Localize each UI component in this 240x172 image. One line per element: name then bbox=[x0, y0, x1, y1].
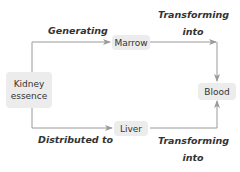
edge-label-marrow-to-blood: Transforming into bbox=[158, 6, 228, 40]
node-marrow-label: Marrow bbox=[114, 37, 147, 49]
edge-label-marrow-to-blood-line2: into bbox=[158, 23, 228, 40]
edge-label-distributed-to: Distributed to bbox=[38, 134, 113, 145]
node-marrow: Marrow bbox=[112, 35, 150, 50]
node-kidney-line1: Kidney bbox=[14, 78, 45, 90]
edge-label-liver-to-blood-line1: Transforming bbox=[158, 132, 228, 149]
edge-label-liver-to-blood: Transforming into bbox=[158, 132, 228, 166]
node-liver-label: Liver bbox=[120, 123, 142, 135]
node-liver: Liver bbox=[114, 121, 148, 136]
node-kidney-essence: Kidney essence bbox=[6, 72, 52, 108]
edge-kidney-to-liver bbox=[32, 108, 112, 128]
edge-label-liver-to-blood-line2: into bbox=[158, 149, 228, 166]
edge-label-marrow-to-blood-line1: Transforming bbox=[158, 6, 228, 23]
node-kidney-line2: essence bbox=[11, 90, 48, 102]
edge-kidney-to-marrow bbox=[32, 42, 110, 72]
edge-label-generating: Generating bbox=[48, 25, 108, 36]
node-blood: Blood bbox=[198, 83, 236, 100]
edge-liver-to-blood bbox=[150, 101, 217, 128]
node-blood-label: Blood bbox=[204, 86, 229, 98]
